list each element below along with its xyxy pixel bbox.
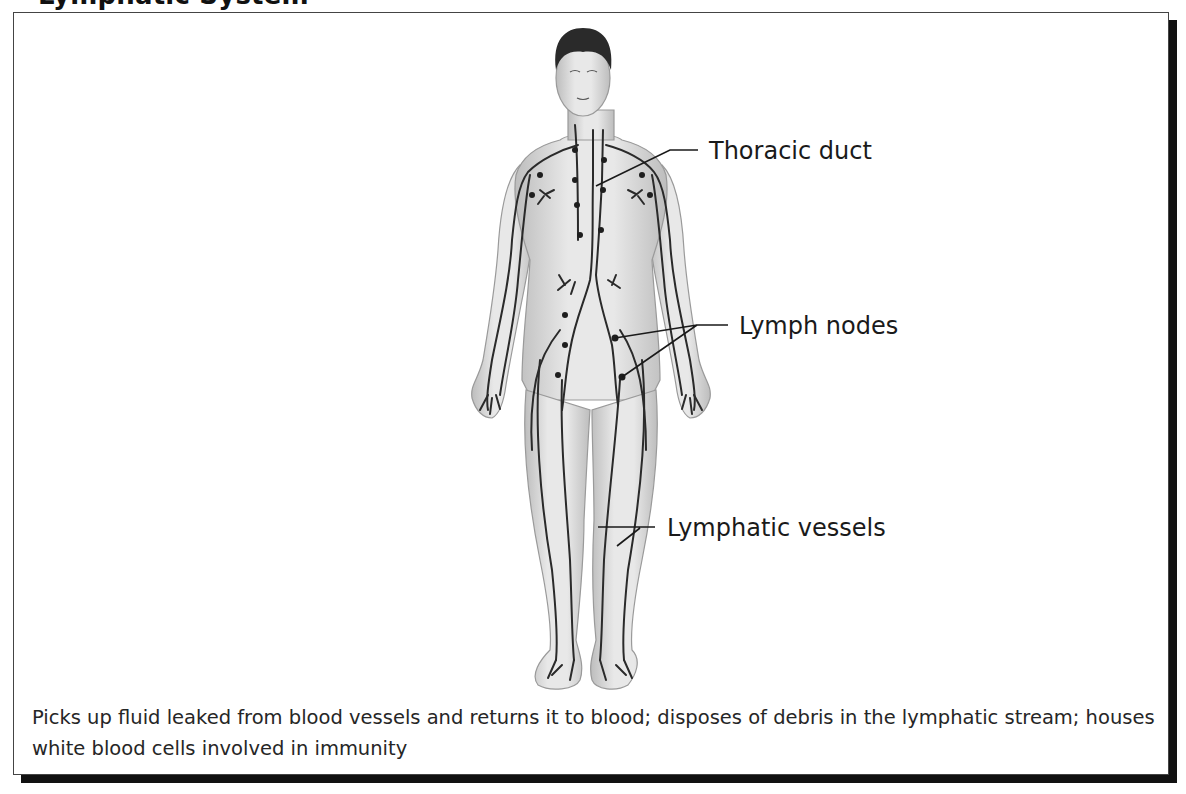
lymphatic-body-illustration [0, 0, 1186, 794]
label-lymph-nodes: Lymph nodes [739, 314, 898, 338]
figure-caption: Picks up fluid leaked from blood vessels… [32, 702, 1162, 764]
label-thoracic-duct: Thoracic duct [709, 139, 872, 163]
body-silhouette [472, 40, 711, 689]
label-lymphatic-vessels: Lymphatic vessels [667, 516, 886, 540]
